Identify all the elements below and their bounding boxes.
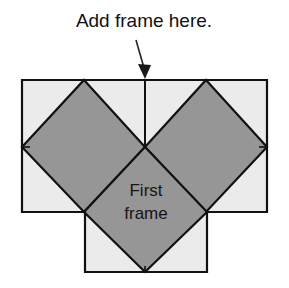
- first-frame-label-line1: First: [129, 181, 162, 200]
- diagram-canvas: Add frame here. First frame: [0, 0, 289, 288]
- down-arrow: [136, 40, 151, 79]
- arrow-head: [138, 64, 151, 79]
- annotation-label: Add frame here.: [76, 10, 212, 31]
- first-frame-label-line2: frame: [124, 204, 167, 223]
- quilt-block-diagram: Add frame here. First frame: [0, 0, 289, 288]
- arrow-shaft: [136, 40, 144, 68]
